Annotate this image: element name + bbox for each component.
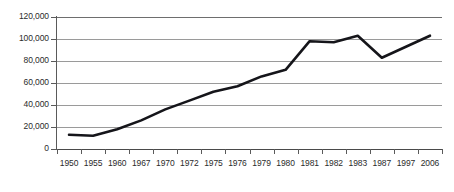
x-axis-tick-label: 1955 [81,158,105,168]
y-axis-tick-40000 [51,105,57,106]
x-axis-tick-label: 1997 [394,158,418,168]
x-axis-tick-label: 1975 [201,158,225,168]
x-axis-tick [153,149,154,154]
x-axis-tick-label: 1987 [370,158,394,168]
x-axis-tick-label: 1982 [322,158,346,168]
gridline-100000 [57,39,442,40]
x-axis-tick [81,149,82,154]
x-axis-tick [370,149,371,154]
x-axis-tick [57,149,58,154]
gridline-20000 [57,127,442,128]
y-axis-tick-80000 [51,61,57,62]
x-axis-tick [394,149,395,154]
gridline-40000 [57,105,442,106]
x-axis-tick-label: 1960 [105,158,129,168]
x-axis-tick-label: 1950 [57,158,81,168]
plot-area [57,17,442,149]
y-axis-tick-60000 [51,83,57,84]
x-axis-tick-label: 1967 [129,158,153,168]
x-axis-tick-label: 1980 [274,158,298,168]
y-axis-tick-label: 60,000 [1,77,49,87]
x-axis-tick [177,149,178,154]
gridline-120000 [57,17,442,18]
x-axis-tick-label: 1976 [225,158,249,168]
y-axis-tick-label: 40,000 [1,99,49,109]
x-axis-tick-label: 1970 [153,158,177,168]
line-chart: 020,00040,00060,00080,000100,000120,000 … [0,0,454,192]
x-axis-tick-label: 1972 [177,158,201,168]
x-axis-tick-label: 1981 [298,158,322,168]
gridline-60000 [57,83,442,84]
x-axis-tick [274,149,275,154]
x-axis-tick [225,149,226,154]
x-axis-tick [346,149,347,154]
y-axis-labels: 020,00040,00060,00080,000100,000120,000 [0,0,49,192]
x-axis-tick [418,149,419,154]
x-axis-tick-label: 1979 [250,158,274,168]
y-axis-tick-20000 [51,127,57,128]
x-axis-tick-label: 1983 [346,158,370,168]
x-axis-tick [129,149,130,154]
y-axis-tick-label: 80,000 [1,55,49,65]
y-axis-tick-120000 [51,17,57,18]
y-axis-tick-label: 0 [1,143,49,153]
x-axis-tick [105,149,106,154]
x-axis-tick [322,149,323,154]
y-axis-tick-100000 [51,39,57,40]
x-axis-tick [442,149,443,154]
y-axis-tick-label: 20,000 [1,121,49,131]
y-axis-tick-label: 100,000 [1,33,49,43]
x-axis-tick [298,149,299,154]
gridline-80000 [57,61,442,62]
y-axis-tick-label: 120,000 [1,11,49,21]
x-axis-tick-label: 2006 [418,158,442,168]
x-axis-tick [201,149,202,154]
x-axis-tick [250,149,251,154]
